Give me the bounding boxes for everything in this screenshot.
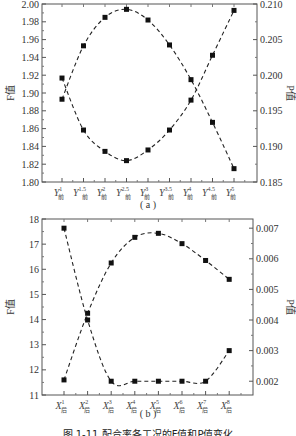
- data-point-marker: [203, 258, 208, 263]
- data-point-marker: [227, 348, 232, 353]
- y-left-tick-label: 1.96: [22, 34, 40, 45]
- y-left-axis-title: F值: [4, 85, 16, 101]
- data-point-marker: [109, 379, 114, 384]
- data-point-marker: [132, 235, 137, 240]
- y-right-axis-title: P值: [285, 85, 296, 101]
- y-left-tick-label: 1.90: [22, 88, 40, 99]
- data-point-marker: [81, 128, 86, 133]
- y-left-axis-title: F值: [4, 299, 16, 315]
- y-left-tick-label: 13: [29, 339, 39, 350]
- data-point-marker: [60, 76, 65, 81]
- data-point-marker: [103, 149, 108, 154]
- y-left-tick-label: 1.98: [22, 16, 40, 27]
- figure-caption: 图 1-11 配合率各工况的F值和P值变化: [0, 428, 296, 436]
- y-right-tick-label: 0.210: [260, 0, 283, 10]
- data-point-marker: [81, 43, 86, 48]
- y-left-tick-label: 2.00: [22, 0, 40, 10]
- y-left-tick-label: 1.86: [22, 123, 40, 134]
- data-point-marker: [146, 147, 151, 152]
- data-point-marker: [210, 53, 215, 58]
- data-point-marker: [227, 277, 232, 282]
- plot-frame: [42, 219, 253, 395]
- chart-panel-a: 1.801.821.841.861.881.901.921.941.961.98…: [0, 0, 296, 212]
- y-right-tick-label: 0.003: [256, 345, 279, 356]
- data-point-marker: [180, 241, 185, 246]
- y-right-tick-label: 0.185: [260, 177, 283, 188]
- panel-b-label: ( b ): [0, 408, 296, 419]
- plot-area: 1.801.821.841.861.881.901.921.941.961.98…: [4, 0, 296, 201]
- plot-frame: [42, 4, 257, 182]
- y-left-tick-label: 15: [29, 289, 39, 300]
- data-point-marker: [62, 226, 67, 231]
- series-p-value: [62, 226, 232, 386]
- y-left-tick-label: 1.80: [22, 177, 40, 188]
- data-point-marker: [210, 120, 215, 125]
- y-left-tick-label: 1.94: [22, 52, 40, 63]
- data-point-marker: [156, 231, 161, 236]
- y-right-tick-label: 0.200: [260, 70, 283, 81]
- y-left-tick-label: 16: [29, 264, 39, 275]
- data-point-marker: [189, 77, 194, 82]
- data-point-marker: [85, 318, 90, 323]
- series-f-value: [60, 7, 237, 171]
- y-right-tick-label: 0.195: [260, 105, 283, 116]
- data-point-marker: [232, 166, 237, 171]
- data-point-marker: [167, 128, 172, 133]
- y-left-tick-label: 1.82: [22, 159, 40, 170]
- data-point-marker: [146, 18, 151, 23]
- data-point-marker: [132, 379, 137, 384]
- panel-a-label: ( a ): [0, 199, 296, 210]
- data-point-marker: [85, 311, 90, 316]
- data-point-marker: [62, 377, 67, 382]
- y-right-tick-label: 0.007: [256, 223, 279, 234]
- y-left-tick-label: 1.84: [22, 141, 40, 152]
- series-f-value: [62, 231, 232, 383]
- data-point-marker: [232, 8, 237, 13]
- y-left-tick-label: 1.88: [22, 105, 40, 116]
- data-point-marker: [124, 158, 129, 163]
- y-left-tick-label: 1.92: [22, 70, 40, 81]
- series-p-value: [60, 8, 237, 163]
- data-point-marker: [203, 379, 208, 384]
- data-point-marker: [189, 98, 194, 103]
- data-point-marker: [156, 379, 161, 384]
- data-point-marker: [180, 379, 185, 384]
- y-left-tick-label: 14: [29, 314, 39, 325]
- y-right-tick-label: 0.004: [256, 315, 279, 326]
- data-point-marker: [167, 42, 172, 47]
- y-right-axis-title: P值: [285, 299, 296, 315]
- data-point-marker: [103, 15, 108, 20]
- y-left-tick-label: 11: [29, 390, 39, 401]
- y-right-tick-label: 0.005: [256, 284, 279, 295]
- y-right-tick-label: 0.190: [260, 141, 283, 152]
- y-left-tick-label: 12: [29, 364, 39, 375]
- y-left-tick-label: 17: [29, 239, 39, 250]
- y-left-tick-label: 18: [29, 214, 39, 225]
- y-right-tick-label: 0.002: [256, 376, 279, 387]
- data-point-marker: [124, 7, 129, 12]
- data-point-marker: [109, 261, 114, 266]
- data-point-marker: [60, 97, 65, 102]
- plot-area: 11121314151617180.0020.0030.0040.0050.00…: [4, 214, 296, 415]
- y-right-tick-label: 0.205: [260, 34, 283, 45]
- y-right-tick-label: 0.006: [256, 253, 279, 264]
